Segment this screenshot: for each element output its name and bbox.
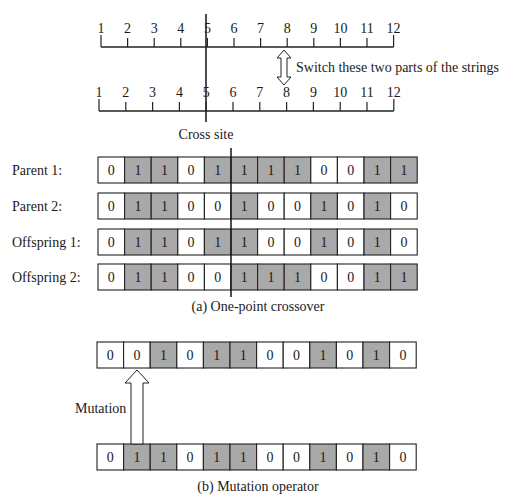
bit-cell: 1	[284, 157, 311, 183]
bit-value: 0	[107, 348, 114, 363]
bit-cell: 0	[97, 342, 124, 368]
bit-value: 1	[321, 199, 328, 214]
row-label: Parent 1:	[12, 163, 62, 178]
bit-cell: 1	[150, 342, 177, 368]
bit-value: 0	[346, 348, 353, 363]
bit-cell: 1	[310, 342, 337, 368]
bit-cell: 0	[284, 229, 311, 255]
bit-cell: 0	[177, 342, 204, 368]
bit-cell: 0	[178, 229, 205, 255]
bit-value: 0	[188, 199, 195, 214]
bit-cell: 1	[364, 264, 391, 290]
bit-value: 0	[267, 235, 274, 250]
bit-value: 1	[240, 348, 247, 363]
bit-value: 0	[108, 163, 115, 178]
bit-cell: 1	[258, 264, 285, 290]
bit-cell: 0	[337, 157, 364, 183]
bit-cell: 1	[364, 229, 391, 255]
bit-value: 1	[241, 235, 248, 250]
ruler-position-label: 11	[360, 85, 373, 100]
bit-value: 0	[294, 199, 301, 214]
bit-value: 1	[320, 450, 327, 465]
ruler-position-label: 3	[151, 21, 158, 36]
bit-cell: 1	[150, 444, 177, 470]
bit-value: 1	[267, 270, 274, 285]
bit-value: 1	[374, 270, 381, 285]
ruler-position-label: 5	[204, 21, 211, 36]
bit-cell: 0	[390, 444, 417, 470]
row-label: Offspring 1:	[12, 235, 81, 250]
bit-value: 1	[320, 348, 327, 363]
bit-value: 0	[399, 450, 406, 465]
bit-value: 0	[294, 235, 301, 250]
string-row: Offspring 2:011001110011	[12, 264, 417, 290]
ruler-position-label: 1	[98, 21, 105, 36]
ruler-position-label: 2	[124, 21, 131, 36]
bit-value: 0	[399, 348, 406, 363]
bit-value: 1	[374, 163, 381, 178]
bit-value: 0	[347, 163, 354, 178]
bit-value: 0	[321, 270, 328, 285]
bit-cell: 0	[178, 193, 205, 219]
bit-cell: 0	[283, 342, 310, 368]
bit-cell: 0	[391, 229, 418, 255]
bit-value: 0	[347, 235, 354, 250]
bit-cell: 0	[258, 229, 285, 255]
bit-cell: 0	[257, 444, 284, 470]
switch-label: Switch these two parts of the strings	[296, 60, 499, 75]
bit-cell: 1	[310, 444, 337, 470]
bit-value: 1	[161, 235, 168, 250]
bit-value: 0	[187, 348, 194, 363]
ruler-position-label: 1	[96, 85, 103, 100]
bit-value: 0	[108, 199, 115, 214]
ruler-top: 123456789101112	[98, 21, 401, 47]
bit-value: 1	[294, 270, 301, 285]
bit-cell: 1	[204, 157, 231, 183]
bit-cell: 0	[284, 193, 311, 219]
bit-cell: 0	[178, 264, 205, 290]
ruler-position-label: 6	[230, 85, 237, 100]
string-row: Parent 2:011001001010	[12, 193, 417, 219]
ruler-position-label: 8	[284, 21, 291, 36]
bit-value: 1	[160, 348, 167, 363]
bit-value: 1	[373, 450, 380, 465]
bit-cell: 1	[364, 157, 391, 183]
ruler-position-label: 11	[360, 21, 373, 36]
bit-value: 1	[241, 270, 248, 285]
bit-cell: 0	[204, 193, 231, 219]
bit-cell: 1	[125, 193, 152, 219]
bit-value: 1	[133, 450, 140, 465]
bit-cell: 1	[124, 444, 151, 470]
bit-value: 0	[214, 270, 221, 285]
bit-cell: 0	[311, 264, 338, 290]
bit-value: 0	[400, 199, 407, 214]
bit-value: 1	[214, 163, 221, 178]
ruler-position-label: 10	[333, 21, 347, 36]
bit-cell: 1	[151, 229, 178, 255]
bit-cell: 0	[258, 193, 285, 219]
mutation-caption: (b) Mutation operator	[197, 479, 319, 495]
bit-value: 1	[374, 199, 381, 214]
bit-cell: 0	[204, 264, 231, 290]
bit-cell: 0	[336, 444, 363, 470]
bit-cell: 0	[98, 229, 125, 255]
bit-value: 1	[134, 235, 141, 250]
bit-cell: 0	[97, 444, 124, 470]
ruler-position-label: 2	[122, 85, 129, 100]
bit-cell: 0	[311, 157, 338, 183]
bit-cell: 1	[364, 193, 391, 219]
bit-value: 0	[187, 450, 194, 465]
bit-cell: 1	[284, 264, 311, 290]
bit-cell: 1	[311, 193, 338, 219]
bit-value: 1	[213, 348, 220, 363]
crossover-caption: (a) One-point crossover	[192, 299, 325, 315]
bit-value: 1	[241, 163, 248, 178]
bit-cell: 1	[204, 229, 231, 255]
bit-value: 0	[188, 235, 195, 250]
bit-cell: 0	[283, 444, 310, 470]
bit-cell: 1	[391, 157, 418, 183]
bit-cell: 0	[337, 193, 364, 219]
ruler-position-label: 3	[149, 85, 156, 100]
bit-value: 1	[241, 199, 248, 214]
bit-cell: 0	[390, 342, 417, 368]
